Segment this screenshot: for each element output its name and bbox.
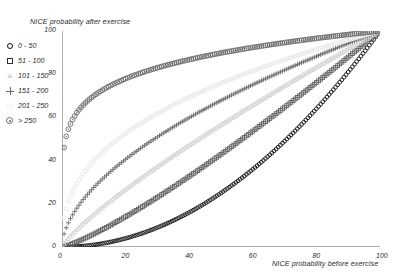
x-tick-label: 0	[58, 252, 62, 259]
y-tick-label: 40	[48, 156, 56, 163]
y-tick-label: 0	[52, 242, 56, 249]
x-tick-label: 20	[122, 252, 130, 259]
axes-and-series	[62, 31, 380, 247]
series-3	[62, 31, 380, 247]
y-axis-title: NICE probability after exercise	[30, 17, 130, 26]
legend-label: 201 - 250	[18, 101, 48, 110]
y-tick-label: 20	[48, 199, 56, 206]
y-tick-label: 80	[48, 69, 56, 76]
faint-circle-marker-icon	[6, 100, 17, 111]
series-1	[62, 31, 380, 247]
x-tick-label: 60	[249, 252, 257, 259]
circled-dot-marker-icon	[6, 115, 17, 126]
y-tick-label: 60	[48, 112, 56, 119]
series-5	[62, 31, 380, 247]
series-2	[62, 31, 380, 247]
legend-label: 101 - 150	[18, 71, 48, 80]
series-4	[62, 31, 380, 247]
legend-label: 51 - 100	[18, 56, 44, 65]
open-triangle-marker-icon	[6, 70, 17, 81]
legend-item-51-100: 51 - 100	[6, 53, 62, 68]
legend-item-151-200: 151 - 200	[6, 83, 62, 98]
open-circle-marker-icon	[6, 40, 17, 51]
legend-label: 151 - 200	[18, 86, 48, 95]
legend-label: > 250	[18, 116, 36, 125]
x-axis-title: NICE probability before exercise	[272, 259, 378, 268]
series-0	[62, 31, 380, 247]
x-tick-label: 40	[185, 252, 193, 259]
open-square-marker-icon	[6, 55, 17, 66]
y-tick-label: 100	[44, 26, 56, 33]
legend-item-0-50: 0 - 50	[6, 38, 62, 53]
x-tick-label: 100	[376, 252, 388, 259]
plot-area: 020406080100020406080100	[62, 31, 380, 247]
legend-label: 0 - 50	[18, 41, 36, 50]
x-tick-label: 80	[312, 252, 320, 259]
plus-marker-icon	[6, 85, 17, 96]
legend-item-201-250: 201 - 250	[6, 98, 62, 113]
chart-root: NICE probability after exercise NICE pro…	[0, 0, 408, 280]
